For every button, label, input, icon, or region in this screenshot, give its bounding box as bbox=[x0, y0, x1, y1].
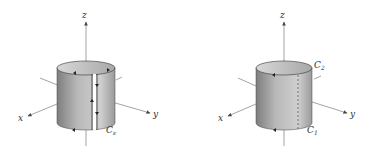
y-label: y bbox=[152, 109, 159, 119]
x-label: x bbox=[18, 113, 23, 123]
curve-label-c1: C1 bbox=[307, 125, 318, 136]
y-axis bbox=[312, 102, 347, 113]
curve-label-c2: C2 bbox=[314, 60, 325, 71]
z-label: z bbox=[279, 10, 285, 20]
cylinder-surface bbox=[57, 68, 115, 130]
cylinder-diagrams: z x y Cε z x y C2 C1 bbox=[0, 0, 374, 152]
x-axis bbox=[28, 104, 57, 116]
x-axis bbox=[228, 104, 256, 116]
cylinder-surface bbox=[256, 68, 312, 130]
left-figure: z x y Cε bbox=[18, 10, 159, 146]
z-label: z bbox=[81, 10, 87, 20]
cylinder-top-rim bbox=[57, 61, 115, 75]
cylinder-top-rim bbox=[256, 61, 312, 75]
y-label: y bbox=[349, 109, 356, 119]
y-axis bbox=[112, 102, 150, 113]
diagram: z x y Cε z x y C2 C1 bbox=[0, 0, 374, 152]
curve-label-c-epsilon: Cε bbox=[106, 125, 116, 136]
right-figure: z x y C2 C1 bbox=[218, 10, 356, 146]
x-label: x bbox=[218, 113, 223, 123]
y-axis-back bbox=[116, 77, 122, 80]
